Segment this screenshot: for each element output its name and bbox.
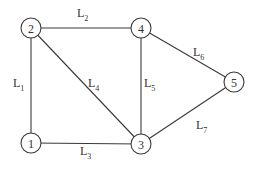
edge-label-l5: L5	[144, 76, 155, 93]
node-2: 2	[21, 18, 41, 38]
node-5: 5	[224, 72, 244, 92]
edge-label-l2: L2	[77, 6, 88, 23]
edge-label-l3: L3	[80, 144, 91, 161]
node-4: 4	[131, 18, 151, 38]
node-label: 4	[138, 22, 144, 36]
node-label: 2	[28, 22, 34, 36]
edge-labels-layer: L1L2L3L4L5L6L7	[13, 6, 207, 161]
nodes-layer: 12345	[21, 18, 244, 154]
network-graph: 12345 L1L2L3L4L5L6L7	[0, 0, 256, 169]
node-3: 3	[131, 134, 151, 154]
edge-label-l1: L1	[13, 76, 24, 93]
node-label: 3	[138, 138, 144, 152]
edge-l6	[141, 28, 234, 82]
edge-l4	[31, 28, 141, 144]
node-label: 1	[28, 137, 34, 151]
node-label: 5	[231, 76, 237, 90]
node-1: 1	[21, 133, 41, 153]
edge-label-l7: L7	[196, 118, 207, 135]
